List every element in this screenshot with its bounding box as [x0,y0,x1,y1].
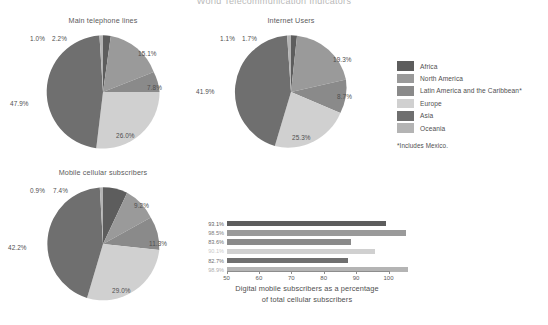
pie-label-europe: 25.3% [292,134,311,141]
pie-label-asia: 47.9% [10,100,29,107]
bar-fill-europe [227,249,376,254]
pie-label-oceania: 0.9% [30,187,45,194]
caption-line-2: of total cellular subscribers [202,295,412,306]
bar-value-europe: 90.1% [202,248,224,254]
pie-slices [235,35,347,147]
pie-chart-mobile-cellular-subscribers: Mobile cellular subscribers 0.9% 7.4% 9.… [8,168,198,320]
bar-fill-latin-america [227,239,352,244]
legend-swatch-latin-america [397,86,414,96]
pie-label-asia: 42.2% [8,244,27,251]
x-tick-label-60: 60 [256,275,263,281]
bar-fill-asia [227,258,348,263]
legend-swatch-north-america [397,74,414,84]
legend-swatch-africa [397,61,414,71]
bar-value-oceania: 98.9% [202,267,224,273]
bar-row: 83.6% [202,238,412,246]
bar-row: 82.7% [202,257,412,265]
pie-label-oceania: 1.1% [220,35,235,42]
page-title: World Telecommunication Indicators [0,0,548,6]
legend-item-latin-america: Latin America and the Caribbean* [397,85,547,97]
bar-fill-north-america [227,230,407,235]
bar-track [227,249,413,254]
pie-canvas [232,33,350,155]
pie-title: Mobile cellular subscribers [8,168,198,177]
legend-label-north-america: North America [420,75,463,82]
pie-label-africa: 2.2% [52,35,67,42]
pie-label-north-america: 9.2% [134,202,149,209]
pie-label-asia: 41.9% [196,88,215,95]
bar-row: 90.1% [202,248,412,256]
bar-x-axis: 50 60 70 80 90 100 [227,271,389,272]
x-tick-100 [389,271,390,274]
bar-track [227,258,413,263]
x-tick-label-100: 100 [383,275,393,281]
x-tick-80 [324,271,325,274]
pie-label-oceania: 1.0% [30,35,45,42]
legend-label-europe: Europe [420,100,442,107]
bar-chart-digital-mobile-share: 93.1% 98.5% 83.6% 90.1% 82.7% [202,218,412,318]
legend: Africa North America Latin America and t… [397,60,547,149]
x-tick-label-80: 80 [320,275,327,281]
x-tick-50 [227,271,228,274]
pie-title: Internet Users [196,16,386,25]
bar-value-africa: 93.1% [202,221,224,227]
legend-swatch-asia [397,111,414,121]
legend-item-africa: Africa [397,60,547,72]
legend-swatch-europe [397,99,414,109]
x-tick-label-90: 90 [353,275,360,281]
bar-value-asia: 82.7% [202,258,224,264]
caption-line-1: Digital mobile subscribers as a percenta… [202,284,412,295]
pie-label-africa: 7.4% [53,187,68,194]
pie-slice-europe [96,92,159,149]
bar-row: 98.9% [202,266,412,274]
pie-label-latin-america: 8.7% [337,93,352,100]
x-tick-60 [259,271,260,274]
bar-track [227,221,413,226]
pie-chart-main-telephone-lines: Main telephone lines 1.0% 2.2% 15.1% 7.8… [8,16,198,166]
pie-svg [232,33,350,151]
pie-label-europe: 26.0% [116,132,135,139]
x-tick-label-70: 70 [288,275,295,281]
legend-swatch-oceania [397,123,414,133]
pie-label-latin-america: 11.3% [149,240,167,247]
pie-label-latin-america: 7.8% [147,84,162,91]
legend-label-oceania: Oceania [420,125,445,132]
bar-track [227,239,413,244]
bar-rows: 93.1% 98.5% 83.6% 90.1% 82.7% [202,220,412,275]
pie-label-africa: 1.7% [242,35,257,42]
bar-row: 98.5% [202,229,412,237]
x-tick-label-50: 50 [223,275,230,281]
legend-footnote: *Includes Mexico. [397,142,547,149]
legend-label-asia: Asia [420,112,433,119]
pie-title: Main telephone lines [8,16,198,25]
x-tick-90 [356,271,357,274]
pie-label-north-america: 19.3% [333,56,352,63]
legend-item-europe: Europe [397,97,547,109]
bar-x-axis-caption: Digital mobile subscribers as a percenta… [202,284,412,305]
bar-value-latin-america: 83.6% [202,239,224,245]
legend-item-oceania: Oceania [397,122,547,134]
pie-label-north-america: 15.1% [138,50,157,57]
pie-label-europe: 29.0% [112,287,131,294]
pie-chart-internet-users: Internet Users 1.1% 1.7% 19.3% 8.7% 25.3… [196,16,386,166]
bar-fill-africa [227,221,387,226]
legend-label-africa: Africa [420,63,437,70]
legend-item-north-america: North America [397,72,547,84]
legend-item-asia: Asia [397,110,547,122]
bar-value-north-america: 98.5% [202,230,224,236]
bar-track [227,230,413,235]
pie-slice-asia [47,35,103,148]
bar-row: 93.1% [202,220,412,228]
legend-label-latin-america: Latin America and the Caribbean* [420,87,522,94]
x-tick-70 [291,271,292,274]
